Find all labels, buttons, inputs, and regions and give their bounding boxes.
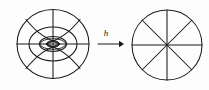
map-arrow: h [98,28,124,47]
figure-canvas: h [0,0,209,90]
mathematical-figure: h [0,0,209,90]
target-figure [132,10,202,80]
source-figure [17,10,89,79]
arrow-head [119,41,124,47]
map-label: h [104,28,109,38]
